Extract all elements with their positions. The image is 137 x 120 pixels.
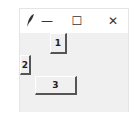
maximize-icon: ☐ (72, 14, 83, 28)
minimize-button[interactable]: — (32, 9, 62, 33)
button-2[interactable]: 2 (20, 55, 31, 75)
button-1[interactable]: 1 (50, 33, 67, 54)
title-bar[interactable]: — ☐ ✕ (20, 9, 128, 33)
client-area: 1 2 3 (20, 33, 128, 112)
button-3[interactable]: 3 (35, 76, 77, 95)
maximize-button[interactable]: ☐ (62, 9, 92, 33)
minimize-icon: — (41, 14, 53, 28)
tk-window: — ☐ ✕ 1 2 3 (19, 8, 129, 112)
close-icon: ✕ (108, 14, 118, 28)
close-button[interactable]: ✕ (98, 9, 128, 33)
